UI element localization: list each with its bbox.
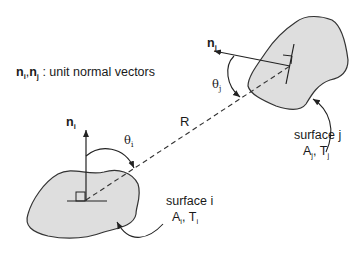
surface-i-name: surface i <box>166 195 213 208</box>
legend-label: ni,nj : unit normal vectors <box>16 66 155 81</box>
legend-n-j: nj <box>29 65 39 79</box>
theta-j-label: θj <box>212 79 221 93</box>
legend-n-i: ni <box>16 65 26 79</box>
distance-r-line <box>86 66 290 200</box>
theta-i-label: θi <box>124 135 133 149</box>
surface-j-properties: Aj, Tj <box>303 145 329 160</box>
normal-j-label: nj <box>207 37 217 52</box>
surface-j-name: surface j <box>294 129 341 142</box>
surface-i-shape <box>27 171 139 239</box>
theta-i-arc <box>86 149 134 168</box>
surface-i-properties: Ai, Ti <box>172 211 198 226</box>
theta-j-arc <box>228 56 240 97</box>
normal-i-label: ni <box>66 116 76 131</box>
distance-r-label: R <box>180 115 189 128</box>
surface-j-shape <box>248 17 348 110</box>
legend-description: : unit normal vectors <box>39 65 155 79</box>
